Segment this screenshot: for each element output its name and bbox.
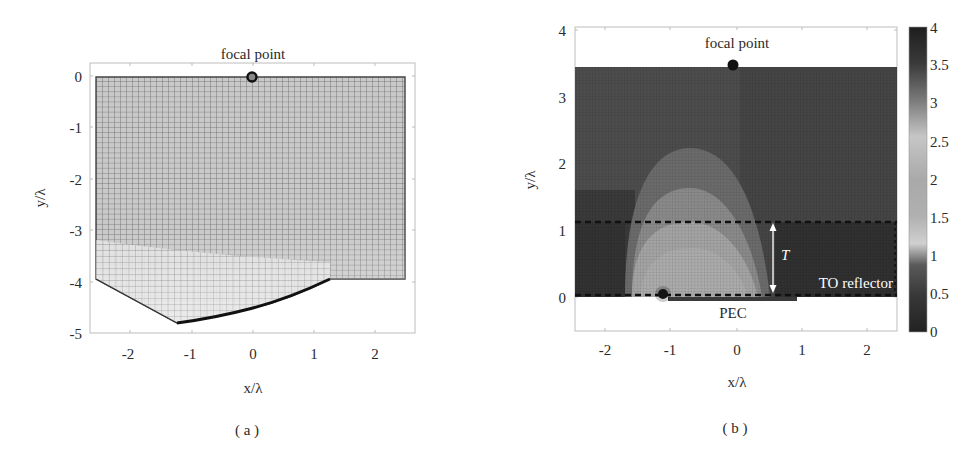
yticks-a: 0 -1 -2 -3 -4 -5 [70,69,83,342]
focal-point-marker-a [248,73,257,82]
focal-point-marker-b [728,60,739,71]
xtick-label: 0 [733,342,741,358]
source-glow [655,286,671,302]
xlabel-b: x/λ [728,374,748,390]
colorbar [909,27,927,332]
panel-a: focal point 0 -1 -2 -3 -4 -5 -2 -1 0 1 2… [32,46,415,439]
figure: focal point 0 -1 -2 -3 -4 -5 -2 -1 0 1 2… [0,0,977,467]
field-heatmap [575,67,897,297]
ytick-label: 3 [559,90,567,106]
colorbar-tick-label: 2 [930,172,938,188]
colorbar-tick-label: 1 [930,248,938,264]
xtick-label: 1 [798,342,806,358]
ytick-label: -2 [70,172,83,188]
xtick-label: -1 [664,342,677,358]
colorbar-tick-label: 1.5 [930,210,949,226]
colorbar-tick-label: 3 [930,95,938,111]
ytick-label: -1 [70,120,83,136]
ytick-label: 4 [559,23,567,39]
colorbar-tick-label: 3.5 [930,57,949,73]
focal-point-label-b: focal point [705,35,770,51]
caption-b: ( b ) [723,420,748,437]
focal-point-label-a: focal point [221,46,286,62]
xtick-label: 1 [310,346,318,362]
ytick-label: -5 [70,326,83,342]
xticks-b: -2 -1 0 1 2 [599,342,871,358]
ytick-label: -3 [70,223,83,239]
ytick-label: 0 [75,69,83,85]
pec-plate [668,297,797,301]
colorbar-tick-label: 4 [930,20,938,36]
xtick-label: -1 [184,346,197,362]
xtick-label: -2 [122,346,135,362]
xticks-a: -2 -1 0 1 2 [122,346,379,362]
colorbar-tick-label: 0.5 [930,286,949,302]
pec-label: PEC [719,305,747,321]
xtick-label: 0 [249,346,257,362]
to-reflector-label: TO reflector [819,275,893,291]
colorbar-ticks: 4 3.5 3 2.5 2 1.5 1 0.5 0 [930,20,949,340]
caption-a: ( a ) [235,422,259,439]
panel-b: T TO reflector PEC focal point 4 3.5 3 2… [522,20,949,437]
ytick-label: 2 [559,156,567,172]
ytick-label: 0 [559,290,567,306]
yticks-b: 4 3 2 1 0 [559,23,567,306]
ylabel-b: y/λ [522,170,538,190]
ylabel-a: y/λ [32,188,48,208]
colorbar-tick-label: 2.5 [930,134,949,150]
xlabel-a: x/λ [244,380,264,396]
xtick-label: -2 [599,342,612,358]
ytick-label: -4 [70,275,83,291]
ytick-label: 1 [559,223,567,239]
xtick-label: 2 [371,346,379,362]
xtick-label: 2 [863,342,871,358]
colorbar-tick-label: 0 [930,324,938,340]
